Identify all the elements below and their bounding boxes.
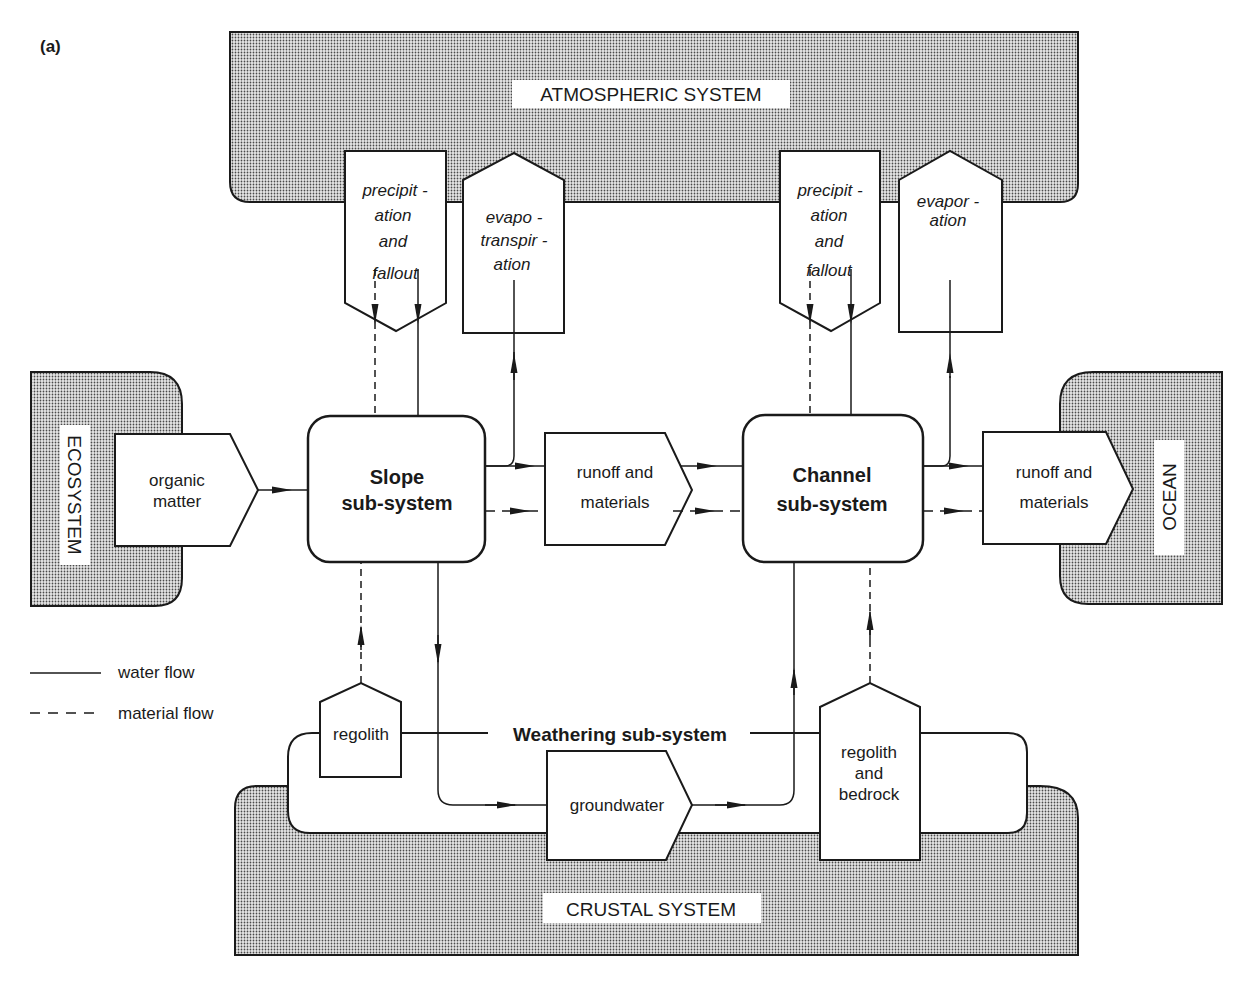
svg-text:runoff and: runoff and bbox=[1016, 463, 1092, 482]
svg-text:transpir -: transpir - bbox=[480, 231, 547, 250]
channel-subsystem-title: Channel bbox=[793, 464, 872, 486]
ocean-label: OCEAN bbox=[1159, 463, 1180, 531]
slope-subsystem: Slope sub-system bbox=[308, 416, 485, 562]
svg-text:materials: materials bbox=[1020, 493, 1089, 512]
weathering-subsystem-label: Weathering sub-system bbox=[513, 724, 727, 745]
svg-text:ation: ation bbox=[375, 206, 412, 225]
svg-text:ation: ation bbox=[930, 211, 967, 230]
svg-text:matter: matter bbox=[153, 492, 202, 511]
svg-text:and: and bbox=[379, 232, 408, 251]
water-flow-channel-to-evaporation bbox=[923, 376, 950, 466]
svg-text:runoff and: runoff and bbox=[577, 463, 653, 482]
atmospheric-system-label: ATMOSPHERIC SYSTEM bbox=[540, 84, 761, 105]
svg-text:and: and bbox=[855, 764, 883, 783]
legend-water-label: water flow bbox=[117, 663, 195, 682]
store-regolith-bedrock: regolith and bedrock bbox=[820, 683, 920, 860]
svg-text:fallout: fallout bbox=[806, 261, 853, 280]
store-precipitation-left: precipit - ation and fallout bbox=[345, 151, 446, 331]
store-runoff-right: runoff and materials bbox=[983, 432, 1133, 544]
legend-material-label: material flow bbox=[118, 704, 214, 723]
water-flow-slope-to-evapotranspiration bbox=[485, 352, 514, 466]
svg-text:ation: ation bbox=[494, 255, 531, 274]
store-regolith: regolith bbox=[320, 683, 401, 777]
figure-label: (a) bbox=[40, 37, 61, 56]
svg-text:organic: organic bbox=[149, 471, 205, 490]
crustal-system-label: CRUSTAL SYSTEM bbox=[566, 899, 736, 920]
svg-text:evapo -: evapo - bbox=[486, 208, 543, 227]
svg-text:precipit -: precipit - bbox=[796, 181, 863, 200]
svg-text:ation: ation bbox=[811, 206, 848, 225]
svg-text:and: and bbox=[815, 232, 844, 251]
slope-subsystem-title: Slope bbox=[370, 466, 424, 488]
store-precipitation-right: precipit - ation and fallout bbox=[780, 151, 880, 331]
ecosystem-label: ECOSYSTEM bbox=[64, 435, 85, 554]
store-organic-matter: organic matter bbox=[115, 434, 258, 546]
svg-text:precipit -: precipit - bbox=[361, 181, 428, 200]
store-runoff-middle: runoff and materials bbox=[545, 433, 692, 545]
channel-subsystem: Channel sub-system bbox=[743, 415, 923, 562]
svg-text:sub-system: sub-system bbox=[776, 493, 887, 515]
svg-text:regolith: regolith bbox=[333, 725, 389, 744]
svg-text:sub-system: sub-system bbox=[341, 492, 452, 514]
svg-text:groundwater: groundwater bbox=[570, 796, 665, 815]
svg-text:regolith: regolith bbox=[841, 743, 897, 762]
landscape-system-diagram: ATMOSPHERIC SYSTEM ECOSYSTEM OCEAN CRUST… bbox=[0, 0, 1260, 995]
svg-text:materials: materials bbox=[581, 493, 650, 512]
svg-text:fallout: fallout bbox=[372, 264, 419, 283]
svg-text:bedrock: bedrock bbox=[839, 785, 900, 804]
store-groundwater: groundwater bbox=[547, 751, 692, 860]
svg-text:evapor -: evapor - bbox=[917, 192, 980, 211]
